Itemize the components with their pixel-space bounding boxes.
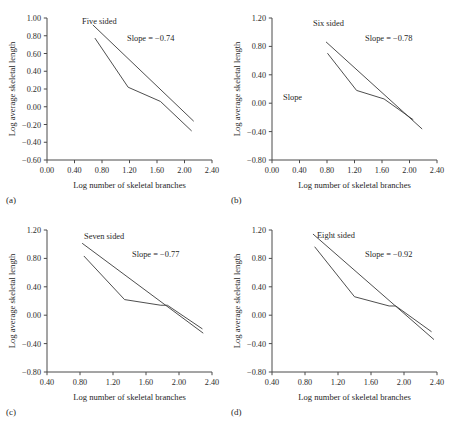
axis-frame <box>47 230 212 372</box>
panel-label: (c) <box>6 407 16 417</box>
y-tick-label: −0.80 <box>247 368 266 377</box>
chart-panel-c: 1.200.800.400.00−0.40−0.800.400.801.201.… <box>0 212 224 424</box>
y-tick-label: 0.20 <box>27 85 41 94</box>
y-tick-label: −0.80 <box>247 156 266 165</box>
x-tick-label: 0.40 <box>292 166 306 175</box>
y-tick-label: 0.80 <box>252 254 266 263</box>
x-tick-label: 2.00 <box>172 378 186 387</box>
x-tick-label: 0.80 <box>320 166 334 175</box>
chart-panel-a: 1.000.800.600.400.200.00−0.20−0.40−0.600… <box>0 0 224 212</box>
fit-line <box>326 42 422 129</box>
x-axis-title: Log number of skeletal branches <box>298 392 411 402</box>
y-tick-label: 0.80 <box>252 42 266 51</box>
x-tick-label: 2.00 <box>177 166 191 175</box>
x-axis-title: Log number of skeletal branches <box>73 180 186 190</box>
panel-label: (b) <box>231 195 242 205</box>
slope-annotation: Slope = −0.78 <box>365 34 412 43</box>
data-line <box>95 38 191 130</box>
y-axis-title: Log average skeletal length <box>232 41 242 136</box>
y-tick-label: 1.20 <box>252 14 266 23</box>
x-tick-label: 2.40 <box>430 166 444 175</box>
extra-slope-annotation: Slope <box>283 93 302 102</box>
y-tick-label: 0.00 <box>27 311 41 320</box>
x-tick-label: 2.40 <box>205 166 219 175</box>
x-axis-title: Log number of skeletal branches <box>298 180 411 190</box>
y-tick-label: −0.40 <box>22 138 41 147</box>
slope-annotation: Slope = −0.77 <box>132 250 179 259</box>
series-title-label: Seven sided <box>84 232 125 241</box>
y-tick-label: 1.20 <box>27 226 41 235</box>
y-tick-label: −0.60 <box>22 156 41 165</box>
chart-panel-b: 1.200.800.400.00−0.40−0.800.000.400.801.… <box>225 0 449 212</box>
x-tick-label: 0.00 <box>40 166 54 175</box>
data-line <box>84 256 202 328</box>
series-title-label: Five sided <box>82 17 117 26</box>
figure-panel-grid: 1.000.800.600.400.200.00−0.20−0.40−0.600… <box>0 0 449 424</box>
x-tick-label: 2.40 <box>205 378 219 387</box>
x-axis-title: Log number of skeletal branches <box>73 392 186 402</box>
y-tick-label: 0.00 <box>27 103 41 112</box>
x-tick-label: 0.80 <box>73 378 87 387</box>
x-tick-label: 1.60 <box>364 378 378 387</box>
x-tick-label: 1.60 <box>375 166 389 175</box>
y-tick-label: −0.40 <box>22 340 41 349</box>
data-line <box>315 247 431 331</box>
y-tick-label: 1.00 <box>27 14 41 23</box>
slope-annotation: Slope = −0.92 <box>365 250 412 259</box>
x-tick-label: 0.40 <box>67 166 81 175</box>
y-tick-label: −0.80 <box>22 368 41 377</box>
x-tick-label: 1.20 <box>331 378 345 387</box>
x-tick-label: 0.80 <box>298 378 312 387</box>
y-tick-label: 0.00 <box>252 99 266 108</box>
x-tick-label: 2.00 <box>402 166 416 175</box>
x-tick-label: 2.40 <box>430 378 444 387</box>
x-tick-label: 1.20 <box>106 378 120 387</box>
y-tick-label: −0.20 <box>22 121 41 130</box>
series-title-label: Eight sided <box>317 231 356 240</box>
chart-panel-d: 1.200.800.400.00−0.40−0.800.400.801.201.… <box>225 212 449 424</box>
panel-label: (a) <box>6 195 16 205</box>
y-axis-title: Log average skeletal length <box>7 41 17 136</box>
series-title-label: Six sided <box>313 19 345 28</box>
x-tick-label: 1.20 <box>122 166 136 175</box>
panel-label: (d) <box>231 407 242 417</box>
plot-svg-a: 1.000.800.600.400.200.00−0.20−0.40−0.600… <box>0 0 224 212</box>
plot-svg-b: 1.200.800.400.00−0.40−0.800.000.400.801.… <box>225 0 449 212</box>
y-tick-label: 0.40 <box>252 71 266 80</box>
x-tick-label: 1.20 <box>347 166 361 175</box>
y-tick-label: 0.40 <box>27 283 41 292</box>
y-tick-label: 0.80 <box>27 254 41 263</box>
x-tick-label: 0.40 <box>265 378 279 387</box>
slope-annotation: Slope = −0.74 <box>127 34 175 43</box>
y-tick-label: 1.20 <box>252 226 266 235</box>
plot-svg-c: 1.200.800.400.00−0.40−0.800.400.801.201.… <box>0 212 224 424</box>
y-axis-title: Log average skeletal length <box>232 253 242 348</box>
plot-svg-d: 1.200.800.400.00−0.40−0.800.400.801.201.… <box>225 212 449 424</box>
y-tick-label: 0.00 <box>252 311 266 320</box>
x-tick-label: 0.40 <box>40 378 54 387</box>
y-axis-title: Log average skeletal length <box>7 253 17 348</box>
y-tick-label: 0.60 <box>27 50 41 59</box>
y-tick-label: −0.40 <box>247 128 266 137</box>
y-tick-label: 0.80 <box>27 32 41 41</box>
y-tick-label: −0.40 <box>247 340 266 349</box>
y-tick-label: 0.40 <box>252 283 266 292</box>
x-tick-label: 1.60 <box>150 166 164 175</box>
x-tick-label: 2.00 <box>397 378 411 387</box>
y-tick-label: 0.40 <box>27 67 41 76</box>
x-tick-label: 0.00 <box>265 166 279 175</box>
x-tick-label: 1.60 <box>139 378 153 387</box>
x-tick-label: 0.80 <box>95 166 109 175</box>
